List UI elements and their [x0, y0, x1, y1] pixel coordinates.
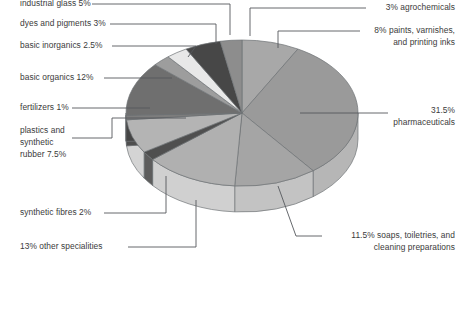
- label-line: basic organics 12%: [20, 72, 94, 82]
- label-line: 3% agrochemicals: [386, 2, 455, 12]
- pie-chart-svg: industrial glass 5%dyes and pigments 3%b…: [0, 0, 464, 309]
- label-pharmaceuticals: 31.5%pharmaceuticals: [393, 105, 455, 127]
- label-line: synthetic fibres 2%: [20, 207, 92, 217]
- label-line: dyes and pigments 3%: [20, 18, 106, 28]
- label-agrochemicals: 3% agrochemicals: [386, 2, 455, 12]
- pie-chart-figure: industrial glass 5%dyes and pigments 3%b…: [0, 0, 464, 309]
- label-industrial-glass: industrial glass 5%: [20, 0, 91, 8]
- label-line: and printing inks: [393, 37, 455, 47]
- leader-line-industrial-glass: [92, 4, 230, 35]
- label-line: 31.5%: [431, 105, 456, 115]
- label-line: cleaning preparations: [374, 242, 455, 252]
- leader-line-paints-varnishes: [278, 31, 360, 48]
- label-basic-organics: basic organics 12%: [20, 72, 94, 82]
- label-line: pharmaceuticals: [393, 117, 455, 127]
- label-line: 11.5% soaps, toiletries, and: [351, 230, 455, 240]
- label-fertilizers: fertilizers 1%: [20, 102, 69, 112]
- leader-line-other-specialities: [128, 200, 196, 247]
- label-line: industrial glass 5%: [20, 0, 91, 8]
- label-line: 13% other specialities: [20, 241, 103, 251]
- label-dyes-pigments: dyes and pigments 3%: [20, 18, 106, 28]
- leader-line-agrochemicals: [250, 8, 366, 36]
- label-synthetic-fibres: synthetic fibres 2%: [20, 207, 92, 217]
- label-basic-inorganics: basic inorganics 2.5%: [20, 40, 103, 50]
- label-line: synthetic: [20, 137, 54, 147]
- leader-line-dyes-pigments: [110, 24, 216, 44]
- label-line: 8% paints, varnishes,: [374, 25, 455, 35]
- label-line: plastics and: [20, 125, 65, 135]
- label-line: fertilizers 1%: [20, 102, 69, 112]
- label-plastics-rubber: plastics andsyntheticrubber 7.5%: [20, 125, 67, 159]
- label-line: rubber 7.5%: [20, 149, 67, 159]
- label-line: basic inorganics 2.5%: [20, 40, 103, 50]
- label-paints-varnishes: 8% paints, varnishes,and printing inks: [374, 25, 455, 47]
- label-other-specialities: 13% other specialities: [20, 241, 103, 251]
- label-soaps-toiletries: 11.5% soaps, toiletries, andcleaning pre…: [351, 230, 455, 252]
